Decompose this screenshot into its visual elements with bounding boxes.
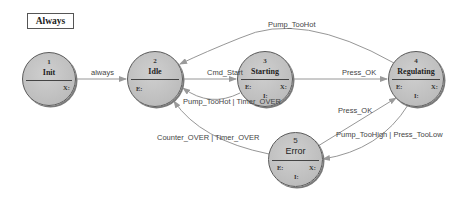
state-idle[interactable]: 2 Idle E: (127, 51, 183, 107)
state-exit-tag: X: (309, 164, 316, 171)
state-number: 2 (128, 57, 182, 65)
transition-label-pump-toohot: Pump_TooHot (268, 20, 316, 29)
state-number: 3 (238, 57, 292, 65)
transition-label-press-ok-top: Press_OK (342, 68, 376, 77)
transition-label-pump-toohigh: Pump_TooHigh | Press_TooLow (336, 130, 443, 139)
state-divider (272, 160, 319, 161)
state-name: Idle (128, 67, 182, 76)
state-divider (392, 79, 440, 80)
state-regulating[interactable]: 4 Regulating E: I: X: (388, 51, 444, 107)
state-init[interactable]: 1 Init X: (22, 52, 76, 106)
state-exit-tag: X: (431, 83, 438, 90)
transition-label-counter-over: Counter_OVER | Timer_OVER (157, 133, 259, 142)
state-entry-tag: E: (245, 83, 252, 90)
state-number: 5 (269, 136, 322, 145)
state-number: 4 (389, 57, 443, 65)
state-name: Starting (238, 67, 292, 76)
state-entry-tag: E: (136, 85, 143, 92)
state-divider (241, 79, 289, 80)
state-divider (131, 79, 179, 80)
transition-label-press-ok-lower: Press_OK (338, 106, 372, 115)
state-number: 1 (23, 58, 75, 66)
state-entry-tag: E: (396, 83, 403, 90)
state-error[interactable]: 5 Error E: I: X: (268, 132, 323, 187)
edge-error-idle (174, 101, 269, 154)
state-name: Regulating (389, 67, 443, 76)
state-name: Error (269, 146, 322, 156)
state-divider (26, 80, 72, 81)
transition-label-always: always (91, 68, 114, 77)
transition-label-starting-idle: Pump_TooHot | Timer_OVER (183, 97, 281, 106)
state-entry-tag: E: (277, 164, 284, 171)
state-internal-tag: I: (414, 92, 419, 99)
state-exit-tag: X: (280, 83, 287, 90)
state-internal-tag: I: (294, 173, 299, 180)
state-name: Init (23, 68, 75, 77)
always-legend-box: Always (27, 13, 74, 29)
transition-label-cmd-start: Cmd_Start (207, 68, 243, 77)
state-exit-tag: X: (63, 84, 70, 91)
